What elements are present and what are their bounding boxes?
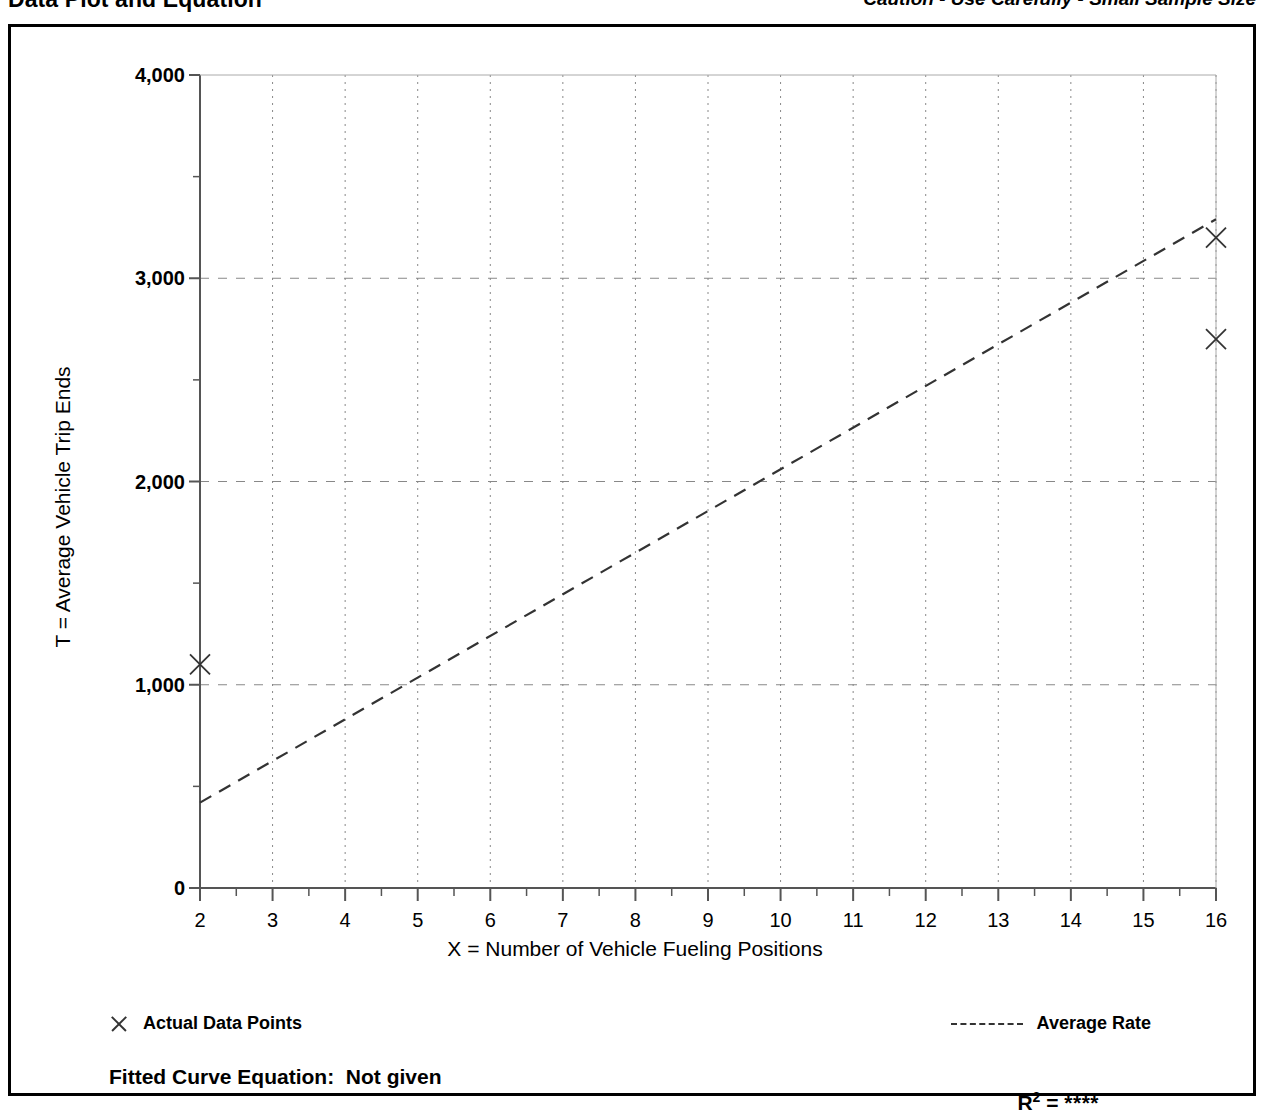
x-tick-label: 11: [843, 909, 864, 932]
x-tick-label: 6: [485, 909, 496, 932]
x-tick-label: 12: [915, 909, 937, 932]
y-tick-label: 2,000: [15, 471, 185, 494]
x-tick-label: 14: [1060, 909, 1082, 932]
equation-row: Fitted Curve Equation: Not given R2 = **…: [11, 1065, 1259, 1105]
fitted-curve-equation: Fitted Curve Equation: Not given: [109, 1065, 442, 1089]
y-tick-label: 1,000: [15, 674, 185, 697]
x-axis-title: X = Number of Vehicle Fueling Positions: [11, 937, 1259, 961]
plot-area: 01,0002,0003,0004,000 234567891011121314…: [11, 27, 1259, 1099]
y-axis-title: T = Average Vehicle Trip Ends: [29, 0, 53, 327]
y-axis-title-text: T = Average Vehicle Trip Ends: [51, 327, 75, 687]
x-tick-label: 4: [340, 909, 351, 932]
chart-panel: 01,0002,0003,0004,000 234567891011121314…: [8, 24, 1256, 1096]
r-squared-value: R2 = ****: [982, 1065, 1099, 1114]
legend-label-actual-data-points: Actual Data Points: [143, 1013, 302, 1034]
x-tick-label: 10: [769, 909, 791, 932]
r-squared-equals: =: [1040, 1091, 1064, 1114]
x-tick-label: 5: [412, 909, 423, 932]
x-tick-label: 16: [1205, 909, 1227, 932]
r-squared-symbol: R: [1017, 1091, 1032, 1114]
chart-legend: Actual Data Points Average Rate: [11, 1009, 1259, 1053]
dashed-line-icon: [951, 1023, 1023, 1025]
gridlines-group: [200, 75, 1216, 888]
r-squared-number: ****: [1064, 1091, 1099, 1114]
x-tick-label: 8: [630, 909, 641, 932]
x-tick-label: 15: [1132, 909, 1154, 932]
legend-label-average-rate: Average Rate: [1037, 1013, 1151, 1034]
x-tick-label: 9: [702, 909, 713, 932]
axes-group: [189, 75, 1216, 901]
x-tick-label: 7: [557, 909, 568, 932]
x-mark-icon: [109, 1014, 129, 1034]
x-tick-label: 13: [987, 909, 1009, 932]
x-tick-label: 2: [194, 909, 205, 932]
legend-item-actual-data-points: Actual Data Points: [109, 1013, 302, 1034]
legend-item-average-rate: Average Rate: [951, 1013, 1151, 1034]
x-tick-label: 3: [267, 909, 278, 932]
y-tick-label: 0: [15, 877, 185, 900]
